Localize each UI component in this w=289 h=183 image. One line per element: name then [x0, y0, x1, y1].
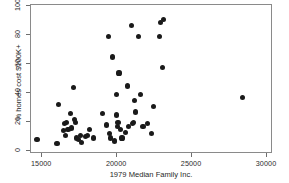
data-point: [110, 54, 115, 59]
data-point: [114, 92, 119, 97]
y-tick-mark: [26, 34, 30, 35]
data-point: [68, 111, 73, 116]
x-tick-mark: [116, 153, 117, 157]
data-point: [114, 112, 119, 117]
x-axis-title: 1979 Median Family Inc.: [30, 170, 272, 179]
x-tick-label: 15000: [31, 159, 52, 168]
plot-frame: [30, 4, 272, 153]
data-point: [64, 120, 69, 125]
data-point: [69, 125, 74, 130]
data-point: [56, 102, 61, 107]
y-tick-mark: [26, 121, 30, 122]
data-point: [54, 141, 59, 146]
y-tick-mark: [26, 92, 30, 93]
data-point: [133, 109, 138, 114]
x-tick-mark: [191, 153, 192, 157]
data-point: [63, 133, 68, 138]
data-point: [132, 98, 137, 103]
x-tick-mark: [41, 153, 42, 157]
data-point: [73, 120, 78, 125]
data-point: [145, 121, 150, 126]
data-point: [79, 140, 84, 145]
data-point: [34, 137, 39, 142]
x-tick-label: 20000: [106, 159, 127, 168]
y-axis-title: % homes cost $100K+: [14, 13, 23, 153]
y-tick-label: 100: [13, 0, 22, 12]
data-point: [71, 85, 76, 90]
data-point: [149, 131, 154, 136]
x-tick-mark: [266, 153, 267, 157]
data-point: [125, 83, 130, 88]
data-point: [91, 135, 96, 140]
data-point: [160, 65, 165, 70]
data-point: [157, 34, 162, 39]
data-point: [116, 70, 121, 75]
data-point: [136, 34, 141, 39]
data-point: [100, 111, 105, 116]
data-point: [123, 130, 128, 135]
data-point: [118, 127, 123, 132]
y-tick-mark: [26, 5, 30, 6]
data-point: [151, 104, 156, 109]
x-tick-label: 25000: [181, 159, 202, 168]
data-point: [87, 127, 92, 132]
data-point: [112, 138, 117, 143]
data-points-layer: [31, 5, 271, 152]
data-point: [106, 34, 111, 39]
data-point: [240, 95, 245, 100]
data-point: [131, 120, 136, 125]
scatter-plot-figure: 15000200002500030000 020406080100 1979 M…: [0, 0, 289, 183]
data-point: [129, 23, 134, 28]
data-point: [119, 135, 124, 140]
y-tick-mark: [26, 63, 30, 64]
x-tick-label: 30000: [256, 159, 277, 168]
y-tick-mark: [26, 150, 30, 151]
data-point: [104, 122, 109, 127]
data-point: [161, 17, 166, 22]
data-point: [85, 133, 90, 138]
data-point: [138, 92, 143, 97]
data-point: [115, 120, 120, 125]
